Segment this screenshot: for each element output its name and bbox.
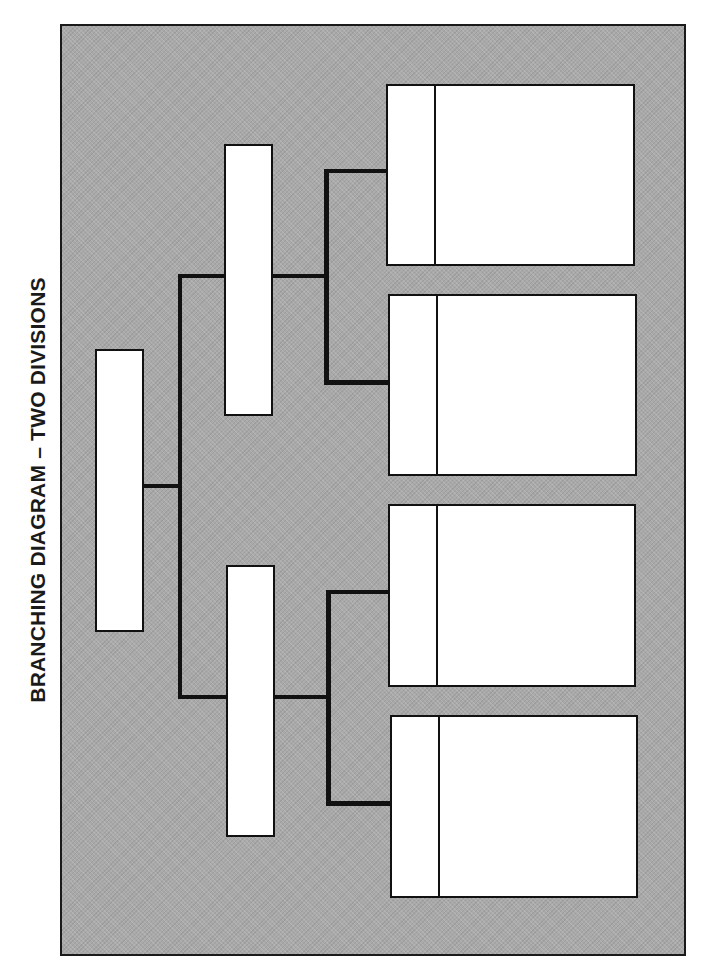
leaf-4-divider	[438, 717, 440, 896]
division-box-1[interactable]	[224, 144, 273, 416]
diagram-title: BRANCHING DIAGRAM – TWO DIVISIONS	[26, 277, 50, 702]
leaf-box-3[interactable]	[388, 504, 636, 687]
leaf-box-4[interactable]	[390, 715, 638, 898]
division-box-2[interactable]	[226, 565, 275, 837]
root-connector-line	[143, 484, 182, 488]
leaf-3-connector-line	[326, 590, 390, 594]
root-box[interactable]	[95, 349, 144, 632]
division-1-branch-vertical	[324, 169, 329, 385]
lower-division-connector-line	[178, 695, 228, 699]
leaf-1-divider	[434, 86, 436, 264]
leaf-3-divider	[436, 506, 438, 685]
division-1-out-line	[272, 274, 328, 278]
leaf-box-2[interactable]	[388, 294, 637, 476]
division-2-out-line	[274, 695, 330, 699]
leaf-box-1[interactable]	[386, 84, 635, 266]
leaf-1-connector-line	[324, 169, 388, 173]
trunk-vertical-line	[178, 274, 182, 699]
upper-division-connector-line	[178, 274, 226, 278]
leaf-2-connector-line	[324, 380, 390, 385]
division-2-branch-vertical	[326, 590, 331, 806]
leaf-2-divider	[436, 296, 438, 474]
leaf-4-connector-line	[326, 801, 392, 806]
